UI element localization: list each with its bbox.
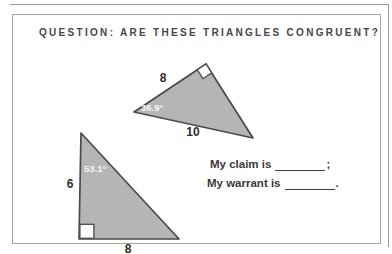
claim-punctuation: ; xyxy=(326,158,330,170)
side-label-8-bottom: 8 xyxy=(125,242,132,254)
side-label-10: 10 xyxy=(186,125,200,139)
triangles-figure: 8 36.9° 10 6 53.1° 8 xyxy=(13,15,392,254)
claim-line: My claim is; xyxy=(210,155,339,174)
warrant-line: My warrant is. xyxy=(207,174,339,193)
claim-warrant-prompt: My claim is; My warrant is. xyxy=(207,155,339,193)
triangle-bottom-shape xyxy=(79,133,179,239)
warrant-punctuation: . xyxy=(336,177,339,189)
triangle-bottom: 6 53.1° 8 xyxy=(67,133,179,254)
warrant-label: My warrant is xyxy=(207,177,281,189)
claim-label: My claim is xyxy=(210,158,271,170)
warrant-blank-line xyxy=(285,188,335,190)
question-card: QUESTION: ARE THESE TRIANGLES CONGRUENT?… xyxy=(12,14,381,244)
right-angle-marker-bottom-triangle xyxy=(80,224,94,238)
angle-label-36-9: 36.9° xyxy=(141,102,163,113)
side-label-6: 6 xyxy=(67,177,74,191)
outer-frame-top-line xyxy=(10,4,389,5)
angle-label-53-1: 53.1° xyxy=(84,163,106,174)
side-label-8-top: 8 xyxy=(160,71,167,85)
claim-blank-line xyxy=(275,169,325,171)
triangle-top: 8 36.9° 10 xyxy=(134,64,253,139)
